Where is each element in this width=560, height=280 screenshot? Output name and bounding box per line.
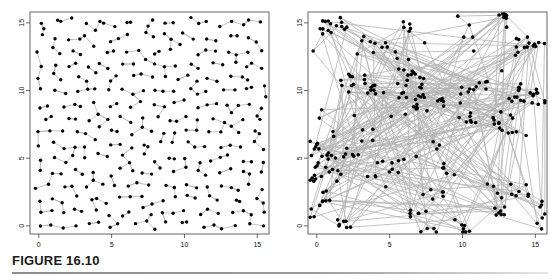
x-tick-label: 0 <box>37 241 41 248</box>
scatter-plot-right-svg: 051015051015 <box>278 0 558 252</box>
y-tick-label: 10 <box>19 87 26 95</box>
scatter-panel-right: 051015051015 <box>278 0 558 252</box>
y-tick-label: 10 <box>297 87 304 95</box>
x-tick-label: 10 <box>181 241 189 248</box>
y-tick-label: 15 <box>19 19 26 27</box>
y-tick-label: 0 <box>19 224 26 228</box>
x-tick-label: 15 <box>253 241 261 248</box>
x-tick-label: 10 <box>459 241 467 248</box>
scatter-plot-left-svg: 051015051015 <box>0 0 280 252</box>
x-tick-label: 5 <box>388 241 392 248</box>
figure-caption-block: FIGURE 16.10 <box>0 252 560 280</box>
plot-panels: 051015051015 051015051015 <box>0 0 560 252</box>
x-tick-label: 0 <box>315 241 319 248</box>
point-layer <box>34 16 268 231</box>
caption-divider-rule <box>12 272 548 274</box>
edge-layer <box>310 14 545 232</box>
scatter-panel-left: 051015051015 <box>0 0 280 252</box>
y-tick-label: 0 <box>297 224 304 228</box>
y-tick-label: 5 <box>19 156 26 160</box>
edge-layer <box>35 18 265 230</box>
y-tick-label: 15 <box>297 19 304 27</box>
figure-container: 051015051015 051015051015 FIGURE 16.10 <box>0 0 560 280</box>
x-tick-label: 15 <box>531 241 539 248</box>
x-tick-label: 5 <box>110 241 114 248</box>
figure-caption-label: FIGURE 16.10 <box>12 253 100 268</box>
y-tick-label: 5 <box>297 156 304 160</box>
